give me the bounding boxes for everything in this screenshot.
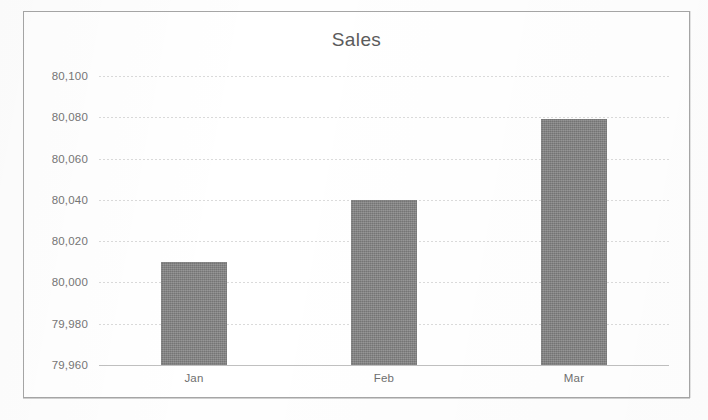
bars-group xyxy=(99,76,669,365)
y-axis-tick-label: 80,000 xyxy=(52,276,88,288)
chart-title: Sales xyxy=(24,29,689,51)
bar-slot xyxy=(351,76,417,365)
bar-jan[interactable] xyxy=(161,262,227,365)
x-axis-tick-label: Mar xyxy=(564,372,584,384)
y-axis-tick-label: 80,100 xyxy=(52,70,88,82)
y-axis-tick-label: 80,040 xyxy=(52,194,88,206)
plot-area: 80,10080,08080,06080,04080,02080,00079,9… xyxy=(99,65,669,376)
y-axis-tick-label: 79,980 xyxy=(52,318,88,330)
y-axis-tick-label: 79,960 xyxy=(52,359,88,371)
y-axis-tick-label: 80,020 xyxy=(52,235,88,247)
x-axis-tick-label: Feb xyxy=(374,372,394,384)
bar-slot xyxy=(161,76,227,365)
bar-feb[interactable] xyxy=(351,200,417,365)
bar-mar[interactable] xyxy=(541,119,607,365)
x-axis-tick-label: Jan xyxy=(184,372,203,384)
y-axis-tick-label: 80,060 xyxy=(52,153,88,165)
y-axis-tick-label: 80,080 xyxy=(52,111,88,123)
scanned-page: Sales 80,10080,08080,06080,04080,02080,0… xyxy=(0,0,708,420)
chart-frame[interactable]: Sales 80,10080,08080,06080,04080,02080,0… xyxy=(23,11,690,398)
bar-slot xyxy=(541,76,607,365)
x-axis-tick-labels: JanFebMar xyxy=(99,365,669,391)
